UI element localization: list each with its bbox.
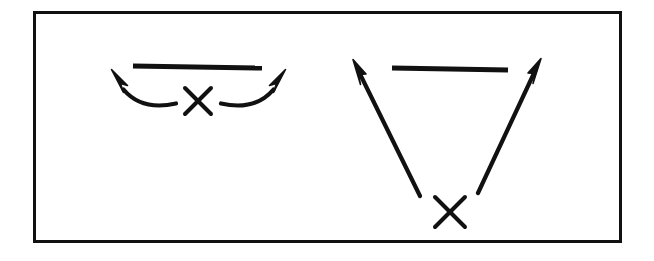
diagram-page: Two-panel play diagram xyxy=(0,0,654,261)
right-panel-line-of-scrimmage xyxy=(392,68,508,70)
left-panel-line-of-scrimmage xyxy=(133,66,262,68)
canvas-background xyxy=(0,0,654,261)
play-diagram-canvas xyxy=(0,0,654,261)
